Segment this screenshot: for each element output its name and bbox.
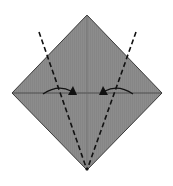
origami-diagram (0, 0, 173, 186)
bottom-point-dot (85, 167, 88, 170)
